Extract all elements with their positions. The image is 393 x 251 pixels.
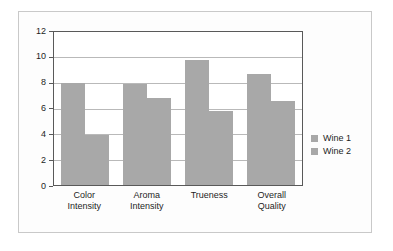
bar-wine2-color-intensity — [85, 135, 109, 185]
legend-swatch-wine-2 — [311, 148, 318, 155]
chart-legend: Wine 1 Wine 2 — [311, 133, 351, 159]
bars-layer — [54, 32, 302, 185]
y-tick-label-12: 12 — [20, 27, 46, 36]
bar-wine2-overall-quality — [271, 101, 295, 185]
scanned-page: 12 10 8 6 4 2 0 — [0, 0, 393, 251]
y-tick-label-0: 0 — [20, 182, 46, 191]
x-label-aroma-intensity: Aroma Intensity — [119, 190, 175, 212]
bar-wine2-trueness — [209, 111, 233, 185]
plot-area — [53, 31, 303, 186]
legend-swatch-wine-1 — [311, 135, 318, 142]
legend-label-wine-1: Wine 1 — [323, 134, 351, 143]
bar-wine1-overall-quality — [247, 74, 271, 185]
x-label-line-1: Overall — [244, 190, 300, 201]
y-tick-label-2: 2 — [20, 156, 46, 165]
y-tick-label-8: 8 — [20, 78, 46, 87]
bar-wine1-color-intensity — [61, 83, 85, 185]
legend-item-wine-2: Wine 2 — [311, 146, 351, 157]
x-label-line-1: Color — [56, 190, 112, 201]
x-label-color-intensity: Color Intensity — [56, 190, 112, 212]
legend-item-wine-1: Wine 1 — [311, 133, 351, 144]
bar-group-aroma-intensity — [123, 32, 171, 185]
x-label-overall-quality: Overall Quality — [244, 190, 300, 212]
x-label-line-2: Quality — [244, 201, 300, 212]
x-label-trueness: Trueness — [181, 190, 237, 212]
x-label-line-1: Trueness — [181, 190, 237, 201]
x-axis-labels: Color Intensity Aroma Intensity Trueness… — [53, 190, 303, 212]
legend-label-wine-2: Wine 2 — [323, 147, 351, 156]
bar-group-overall-quality — [247, 32, 295, 185]
y-tick-label-4: 4 — [20, 130, 46, 139]
x-label-line-2: Intensity — [56, 201, 112, 212]
y-tick-label-6: 6 — [20, 104, 46, 113]
bar-wine1-aroma-intensity — [123, 84, 147, 185]
bar-group-trueness — [185, 32, 233, 185]
bar-wine1-trueness — [185, 60, 209, 185]
x-label-line-2: Intensity — [119, 201, 175, 212]
bar-wine2-aroma-intensity — [147, 98, 171, 185]
y-tick-label-10: 10 — [20, 52, 46, 61]
x-label-line-1: Aroma — [119, 190, 175, 201]
bar-chart: 12 10 8 6 4 2 0 — [0, 0, 393, 251]
y-axis-tick-0 — [49, 186, 53, 187]
bar-group-color-intensity — [61, 32, 109, 185]
